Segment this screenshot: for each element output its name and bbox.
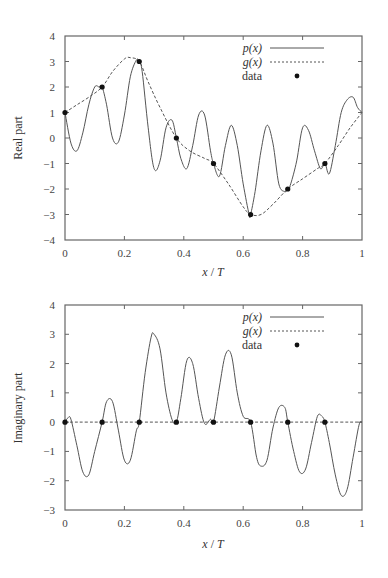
y-tick-label: 0	[50, 416, 56, 428]
series-group	[62, 57, 362, 218]
x-tick-label: 0.6	[236, 247, 250, 259]
figure: −4−3−2−101234 00.20.40.60.81 p(x)g(x)dat…	[0, 0, 388, 578]
data-point-marker	[285, 420, 290, 425]
y-tick-label: −1	[43, 158, 55, 170]
legend-label: p(x)	[242, 41, 262, 55]
legend-label: data	[242, 69, 263, 83]
data-point-marker	[322, 161, 327, 166]
data-point-marker	[62, 110, 67, 115]
y-axis-ticks: −3−2−101234	[43, 299, 362, 516]
legend-label: g(x)	[243, 324, 262, 338]
x-tick-label: 1	[359, 517, 365, 529]
x-tick-label: 0.6	[236, 517, 250, 529]
y-tick-label: 3	[50, 328, 56, 340]
data-point-marker	[248, 420, 253, 425]
data-point-marker	[248, 212, 253, 217]
legend-label: g(x)	[243, 55, 262, 69]
x-axis-ticks: 00.20.40.60.81	[62, 305, 365, 529]
x-tick-label: 0.8	[296, 517, 310, 529]
data-point-marker	[322, 420, 327, 425]
x-tick-label: 0	[62, 517, 68, 529]
data-point-marker	[137, 59, 142, 64]
data-point-marker	[100, 420, 105, 425]
legend: p(x)g(x)data	[242, 310, 324, 352]
g-x-dashed-curve	[65, 57, 362, 215]
x-axis-ticks: 00.20.40.60.81	[62, 36, 365, 259]
y-tick-label: −3	[43, 504, 55, 516]
y-tick-label: −2	[43, 475, 55, 487]
x-tick-label: 1	[359, 247, 365, 259]
x-tick-label: 0.4	[177, 517, 191, 529]
x-tick-label: 0.4	[177, 247, 191, 259]
legend-marker-icon	[295, 74, 300, 79]
y-tick-label: 4	[50, 299, 56, 311]
data-point-marker	[211, 420, 216, 425]
data-point-marker	[100, 84, 105, 89]
data-point-marker	[137, 420, 142, 425]
series-group	[62, 333, 362, 497]
x-tick-label: 0.2	[118, 247, 132, 259]
real-part-plot: −4−3−2−101234 00.20.40.60.81 p(x)g(x)dat…	[11, 30, 365, 279]
p-x-solid-curve	[65, 333, 362, 497]
p-x-solid-curve	[65, 59, 362, 218]
legend-label: p(x)	[242, 310, 262, 324]
y-tick-label: −1	[43, 445, 55, 457]
data-point-marker	[174, 135, 179, 140]
x-tick-label: 0.8	[296, 247, 310, 259]
y-tick-label: 0	[50, 132, 56, 144]
x-axis-title: x / T	[201, 265, 225, 279]
data-point-marker	[211, 161, 216, 166]
y-axis-title: Real part	[11, 116, 25, 160]
y-axis-title: Imaginary part	[11, 372, 25, 444]
legend-label: data	[242, 338, 263, 352]
x-axis-title: x / T	[201, 537, 225, 551]
y-tick-label: −4	[43, 234, 55, 246]
y-tick-label: 1	[50, 387, 56, 399]
legend: p(x)g(x)data	[242, 41, 324, 83]
y-tick-label: −3	[43, 209, 55, 221]
y-tick-label: −2	[43, 183, 55, 195]
legend-marker-icon	[295, 343, 300, 348]
x-tick-label: 0.2	[118, 517, 132, 529]
data-point-marker	[62, 420, 67, 425]
y-tick-label: 1	[50, 107, 56, 119]
plot-frame	[65, 36, 362, 240]
y-tick-label: 3	[50, 56, 56, 68]
imaginary-part-plot: −3−2−101234 00.20.40.60.81 p(x)g(x)data …	[11, 299, 365, 551]
y-tick-label: 2	[50, 358, 56, 370]
data-point-marker	[285, 186, 290, 191]
y-tick-label: 4	[50, 30, 56, 42]
x-tick-label: 0	[62, 247, 68, 259]
plot-frame	[65, 305, 362, 510]
data-point-marker	[174, 420, 179, 425]
y-tick-label: 2	[50, 81, 56, 93]
